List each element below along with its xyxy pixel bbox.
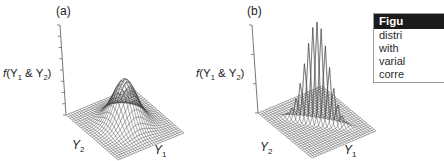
z-axis-label-a: f(Y1 & Y2) [3,67,51,82]
caption-header: Figu [374,14,444,29]
caption-line: distri [374,29,444,42]
y1-axis-label-a: Y1 [154,143,166,159]
y2-axis-label-a: Y2 [72,138,84,154]
y1-axis-label-b: Y1 [344,143,356,159]
z-axis-label-b: f(Y1 & Y2) [196,67,244,82]
caption-line: varial [374,55,444,68]
caption-line: with [374,42,444,55]
figure-caption: Figu distri with varial corre [373,13,444,83]
figure-panel-b: (b) f(Y1 & Y2) Y2 Y1 [192,0,382,161]
figure-panel-a: (a) f(Y1 & Y2) Y2 Y1 [0,0,190,161]
y2-axis-label-b: Y2 [260,140,272,156]
caption-line: corre [374,68,444,81]
